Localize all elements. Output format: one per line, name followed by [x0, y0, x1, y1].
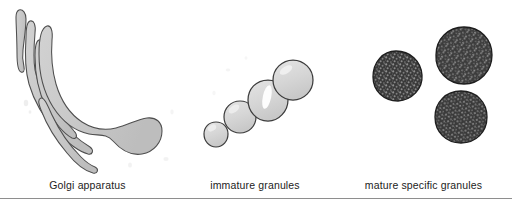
diagram-artwork: [0, 0, 512, 207]
immature-background-speckles: [212, 56, 247, 95]
mature-granules-illustration: [373, 27, 492, 143]
caption-mature-specific-granules: mature specific granules: [335, 179, 512, 192]
figure-panel: Golgi apparatus immature granules mature…: [0, 0, 512, 207]
immature-granules-illustration: [204, 56, 313, 147]
caption-row: Golgi apparatus immature granules mature…: [0, 179, 512, 195]
caption-golgi-apparatus: Golgi apparatus: [0, 179, 175, 192]
immature-granule-4: [273, 60, 313, 100]
mature-granule-top-right: [436, 27, 492, 84]
golgi-cisterna-1: [16, 10, 26, 72]
golgi-apparatus-illustration: [16, 10, 174, 173]
mature-granule-bottom-right: [435, 91, 487, 143]
mature-granule-left: [373, 51, 422, 101]
caption-immature-granules: immature granules: [175, 179, 335, 192]
immature-granule-1: [204, 122, 228, 147]
bottom-divider: [0, 198, 512, 199]
